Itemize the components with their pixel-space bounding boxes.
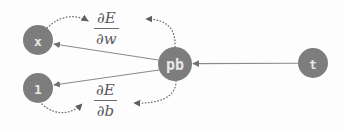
edge-one-to-dEdb <box>42 104 82 113</box>
graph-svg: x 1 pb t <box>0 0 345 131</box>
dEdw-numerator: ∂E <box>94 11 119 27</box>
node-one-label: 1 <box>34 82 42 97</box>
node-x[interactable]: x <box>23 25 53 55</box>
node-pb[interactable]: pb <box>158 47 192 81</box>
dEdw-fraction-bar <box>94 28 119 29</box>
nodes: x 1 pb t <box>23 25 328 103</box>
label-dE-db: ∂E ∂b <box>94 83 117 119</box>
diagram-canvas: x 1 pb t ∂E ∂w ∂E ∂b <box>0 0 345 131</box>
node-t[interactable]: t <box>298 48 328 78</box>
edge-x-to-dEdw <box>47 17 88 28</box>
edge-pb-to-dEdb <box>134 81 176 103</box>
node-pb-label: pb <box>166 56 184 74</box>
dEdb-denominator: ∂b <box>94 103 117 119</box>
label-dE-dw: ∂E ∂w <box>94 11 119 47</box>
node-t-label: t <box>309 57 317 72</box>
dEdb-numerator: ∂E <box>94 83 117 99</box>
node-one[interactable]: 1 <box>23 73 53 103</box>
dEdb-fraction-bar <box>94 100 117 101</box>
edge-pb-to-dEdw <box>146 19 175 47</box>
node-x-label: x <box>34 34 42 49</box>
dEdw-denominator: ∂w <box>94 31 119 47</box>
